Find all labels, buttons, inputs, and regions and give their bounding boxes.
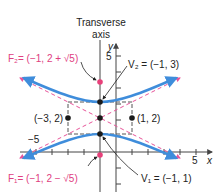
hyperbola-diagram: Transverse axis y x 5 5 −5 (−3, 2) (1, 2… [0,0,223,192]
x-tick-5-label: 5 [192,155,198,166]
f1-callout-arrow [88,157,97,166]
left-box-point [65,115,71,121]
right-box-point-label: (1, 2) [137,113,160,124]
f1-label: F₁= (−1, 2 − √5) [8,173,78,184]
focus-f1 [97,152,103,158]
v1-callout-arrow [103,137,138,175]
left-box-point-label: (−3, 2) [34,113,63,124]
center-point [97,115,103,121]
f2-label: F₂= (−1, 2 + √5) [8,53,78,64]
x-tick-neg5-label: −5 [28,134,40,145]
y-tick-5-label: 5 [106,51,112,62]
focus-f2 [97,79,103,85]
f2-callout-arrow [81,62,96,80]
v1-label: V₁ = (−1, 1) [141,173,192,184]
v2-label: V₂ = (−1, 3) [128,59,179,70]
vertex-v1 [97,131,103,137]
transverse-axis-label-line2: axis [92,29,110,40]
transverse-axis-label-line1: Transverse [76,17,126,28]
right-box-point [129,115,135,121]
v2-callout-arrow [103,66,127,99]
x-axis-label: x [206,155,213,166]
vertex-v2 [97,99,103,105]
